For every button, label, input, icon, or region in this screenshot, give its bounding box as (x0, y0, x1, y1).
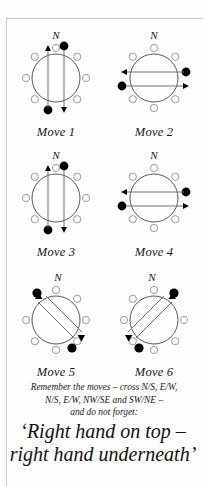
bell-open-n (52, 164, 59, 171)
path-line-a (136, 302, 172, 338)
move-diagram-6: N (108, 266, 200, 362)
bell-open-se (172, 96, 179, 103)
move-label-3: Move 3 (7, 245, 105, 260)
bell-open-se (74, 338, 81, 345)
move-diagram-3: N (10, 146, 102, 242)
move-cell-3: N Move 3 (7, 142, 105, 262)
bell-open-nw (129, 173, 136, 180)
compass-north-label: N (147, 271, 156, 283)
bell-open-se (172, 216, 179, 223)
move-cell-4: N Move 4 (105, 142, 203, 262)
bell-filled-wsw (118, 82, 127, 91)
arrow-down-icon (61, 227, 67, 233)
compass-north-label: N (149, 149, 158, 161)
bell-filled-se (67, 343, 76, 352)
move-5-svg: N (10, 266, 102, 362)
bell-open-se (74, 216, 81, 223)
bell-open-sw (31, 96, 38, 103)
bell-open-nw (31, 53, 38, 60)
bell-open-e (82, 194, 89, 201)
mnemonic-line-1: ‘Right hand on top – (4, 420, 202, 443)
bell-open-n (150, 286, 157, 293)
bell-open-sw (129, 96, 136, 103)
bell-open-sw (31, 338, 38, 345)
bell-open-nw (129, 295, 136, 302)
bell-open-w (22, 316, 29, 323)
arrow-up-icon (45, 45, 51, 51)
caption-block: Remember the moves – cross N/S, E/W, N/S… (9, 381, 199, 419)
arrow-right-icon (183, 83, 189, 89)
move-cell-6: N (105, 262, 203, 382)
moves-grid: N (7, 22, 203, 382)
bell-open-e (180, 316, 187, 323)
move-6-svg: N (108, 266, 200, 362)
move-3-svg: N (10, 146, 102, 242)
bell-open-n (150, 44, 157, 51)
arrow-down-icon (61, 107, 67, 113)
bell-open-e (82, 316, 89, 323)
page-root: N (0, 0, 203, 486)
arrow-up-icon (45, 165, 51, 171)
bell-filled-wsw (118, 202, 127, 211)
bell-open-n (52, 44, 59, 51)
bell-open-s (150, 224, 157, 231)
move-cell-1: N (7, 22, 105, 142)
move-diagram-1: N (10, 26, 102, 122)
bell-open-s (150, 346, 157, 353)
path-line-a (38, 302, 74, 338)
compass-north-label: N (53, 271, 62, 283)
arrow-left-icon (121, 189, 127, 195)
bell-open-sw (31, 216, 38, 223)
move-label-6: Move 6 (105, 365, 203, 380)
move-label-5: Move 5 (7, 365, 105, 380)
bell-circle (130, 54, 178, 102)
mnemonic-block: ‘Right hand on top – right hand undernea… (4, 420, 202, 465)
move-diagram-4: N (108, 146, 200, 242)
mnemonic-line-2: right hand underneath’ (4, 443, 202, 466)
bell-open-ne (74, 295, 81, 302)
move-2-svg: N (108, 26, 200, 122)
bell-filled-nne (60, 42, 69, 51)
bell-open-nw (31, 173, 38, 180)
bell-open-n (150, 164, 157, 171)
bell-open-n (52, 286, 59, 293)
bell-open-e (82, 74, 89, 81)
move-cell-2: N Move 2 (105, 22, 203, 142)
caption-line-2: N/S, E/W, NW/SE and SW/NE – (9, 394, 199, 407)
arrow-right-icon (183, 203, 189, 209)
bell-open-ne (74, 173, 81, 180)
arrow-left-icon (121, 69, 127, 75)
page-frame-top-rule (6, 18, 203, 19)
bell-open-s (52, 346, 59, 353)
bell-circle (130, 174, 178, 222)
bell-open-se (172, 338, 179, 345)
bell-open-ne (74, 53, 81, 60)
move-label-2: Move 2 (105, 125, 203, 140)
bell-filled-nne (60, 162, 69, 171)
bell-open-ne (172, 173, 179, 180)
bell-open-w (22, 74, 29, 81)
caption-line-1: Remember the moves – cross N/S, E/W, (9, 381, 199, 394)
bell-filled-sw (134, 343, 143, 352)
move-label-1: Move 1 (7, 125, 105, 140)
compass-north-label: N (51, 149, 60, 161)
move-label-4: Move 4 (105, 245, 203, 260)
bell-open-se (74, 96, 81, 103)
move-4-svg: N (108, 146, 200, 242)
bell-open-sw (129, 338, 136, 345)
bell-circle (32, 174, 80, 222)
bell-open-ne (172, 53, 179, 60)
move-1-svg: N (10, 26, 102, 122)
bell-open-w (22, 194, 29, 201)
compass-north-label: N (51, 29, 60, 41)
bell-open-sw (129, 216, 136, 223)
compass-north-label: N (149, 29, 158, 41)
bell-open-w (120, 316, 127, 323)
bell-circle (32, 54, 80, 102)
move-diagram-2: N (108, 26, 200, 122)
bell-open-s (150, 104, 157, 111)
move-cell-5: N (7, 262, 105, 382)
move-diagram-5: N (10, 266, 102, 362)
bell-open-nw (129, 53, 136, 60)
caption-line-3: and do not forget: (9, 406, 199, 419)
